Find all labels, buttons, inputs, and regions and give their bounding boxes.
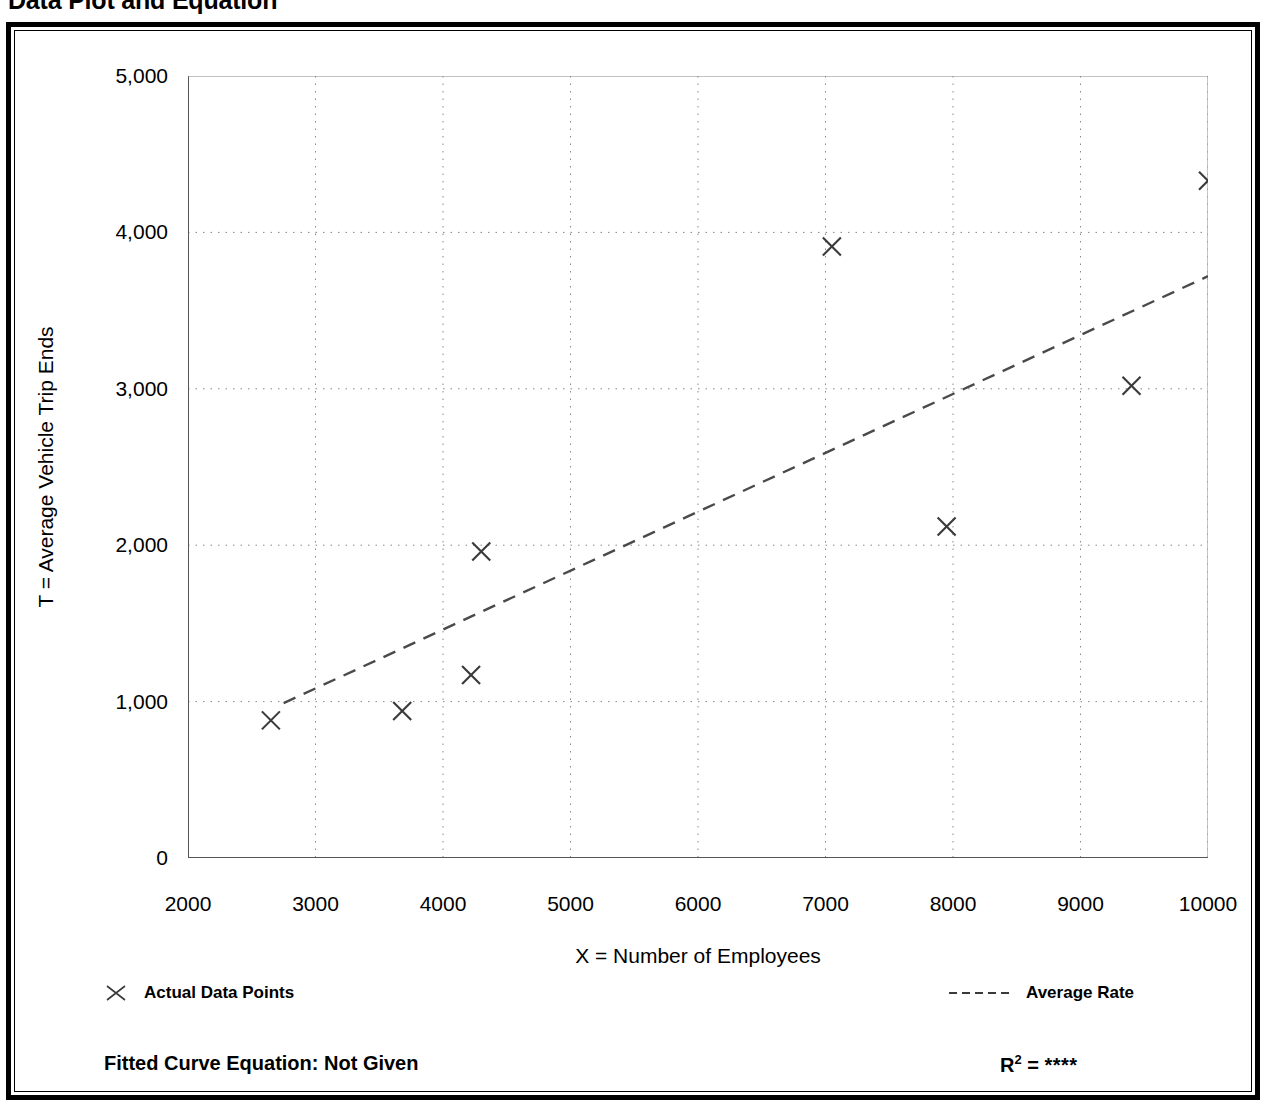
x-tick-label: 10000 [1179,893,1237,914]
legend-item-average-rate: Average Rate [948,983,1134,1003]
x-tick-label: 5000 [547,893,594,914]
data-points-group [262,172,1208,730]
y-axis-tick-labels: 01,0002,0003,0004,0005,000 [72,0,168,1109]
x-tick-label: 2000 [165,893,212,914]
r-squared-exponent: 2 [1014,1052,1021,1067]
y-tick-label: 2,000 [72,534,168,555]
fitted-curve-equation: Fitted Curve Equation: Not Given [104,1052,418,1075]
x-axis-title: X = Number of Employees [188,944,1208,968]
y-tick-label: 3,000 [72,378,168,399]
chart-footer: Fitted Curve Equation: Not Given R2 = **… [0,1052,1268,1086]
data-point-marker [393,702,411,720]
x-tick-label: 8000 [930,893,977,914]
trend-line-segment [284,276,1208,703]
y-axis-title-container: T = Average Vehicle Trip Ends [26,76,66,858]
data-point-marker [462,666,480,684]
y-tick-label: 0 [72,847,168,868]
x-tick-label: 3000 [292,893,339,914]
trend-line-average-rate [284,276,1208,703]
data-point-marker [1123,377,1141,395]
r-squared-block: R2 = **** [1000,1052,1078,1077]
plot-area [188,76,1208,858]
scatter-plot-svg [188,76,1208,858]
legend-item-actual-data-points: Actual Data Points [104,983,294,1003]
data-point-marker [823,237,841,255]
y-tick-label: 4,000 [72,221,168,242]
x-tick-label: 9000 [1057,893,1104,914]
x-tick-label: 4000 [420,893,467,914]
y-tick-label: 5,000 [72,65,168,86]
x-axis-tick-labels: 2000300040005000600070008000900010000 [0,893,1268,921]
dashed-line-icon [948,983,1012,1003]
r-squared-label: R [1000,1054,1014,1076]
r-squared-value: **** [1045,1054,1078,1076]
x-tick-label: 6000 [675,893,722,914]
x-marker-icon [104,983,128,1003]
legend-label-average-rate: Average Rate [1026,983,1134,1003]
legend-label-actual-data-points: Actual Data Points [144,983,294,1003]
data-point-marker [262,711,280,729]
chart-legend: Actual Data Points Average Rate [0,983,1268,1013]
r-squared-equals: = [1027,1054,1039,1076]
x-tick-label: 7000 [802,893,849,914]
y-tick-label: 1,000 [72,691,168,712]
data-point-marker [1199,172,1208,190]
y-axis-title: T = Average Vehicle Trip Ends [34,326,58,607]
